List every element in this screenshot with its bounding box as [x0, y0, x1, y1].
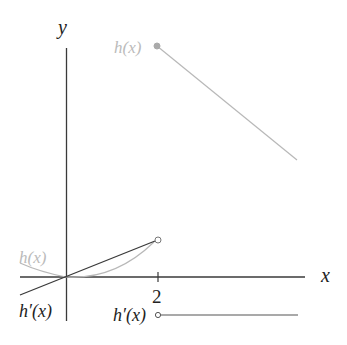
hprime-open-dot-top	[155, 237, 161, 243]
hprime-label-left: h′(x)	[19, 301, 52, 322]
hprime-open-dot-bottom	[155, 312, 160, 317]
y-axis-label: y	[56, 16, 67, 39]
hprime-label-right: h′(x)	[113, 305, 146, 326]
h-label-left: h(x)	[19, 248, 47, 267]
h-filled-dot	[154, 43, 160, 49]
h-label-upper: h(x)	[114, 38, 142, 57]
h-line-right	[157, 46, 297, 160]
x-axis-label: x	[320, 264, 330, 286]
x-tick-label-2: 2	[152, 286, 162, 307]
function-graph: y x h(x) h(x) h′(x) h′(x) 2	[0, 0, 347, 345]
